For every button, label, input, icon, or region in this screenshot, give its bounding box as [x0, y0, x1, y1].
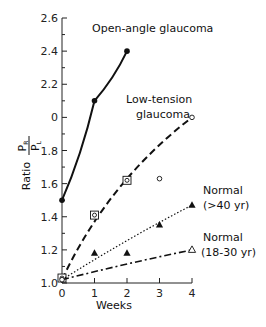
y-tick-label: 1.8 — [41, 145, 59, 158]
open-triangle-marker — [188, 246, 195, 253]
label-open-angle: Open-angle glaucoma — [92, 22, 213, 35]
label-normal-40-1: Normal — [203, 184, 243, 197]
y-axis-label-num: PR — [16, 141, 29, 152]
y-axis-label: Ratio PR PL — [16, 136, 42, 190]
filled-triangle-marker — [123, 249, 130, 256]
series-3 — [62, 205, 192, 280]
open-circle-marker — [157, 176, 162, 181]
y-tick-label: 1.6 — [41, 178, 59, 191]
y-axis-label-den: PL — [29, 140, 42, 151]
y-tick-label: 2.6 — [41, 12, 59, 25]
filled-circle-marker — [92, 98, 98, 104]
y-tick-label: 0 — [51, 111, 58, 124]
filled-triangle-marker — [91, 249, 98, 256]
y-tick-label: 1.2 — [41, 244, 59, 257]
x-tick-label: 3 — [156, 287, 163, 300]
y-tick-label: 2.2 — [41, 78, 59, 91]
square-circle-marker — [123, 176, 131, 184]
filled-circle-marker — [124, 48, 130, 54]
filled-triangle-marker — [188, 201, 195, 208]
chart: 1.01.21.41.61.802.22.42.601234 Open-angl… — [0, 0, 266, 327]
y-tick-label: 1.4 — [41, 211, 59, 224]
x-axis-label: Weeks — [96, 299, 132, 312]
plot-area — [58, 48, 196, 282]
filled-circle-marker — [59, 197, 65, 203]
square-circle-marker — [91, 211, 99, 219]
label-low-tension-1: Low-tension — [126, 93, 192, 106]
label-normal-40-2: (>40 yr) — [203, 199, 249, 212]
label-normal-18-1: Normal — [203, 231, 243, 244]
x-tick-label: 0 — [59, 287, 66, 300]
label-low-tension-2: glaucoma — [136, 108, 190, 121]
y-tick-label: 1.0 — [41, 277, 59, 290]
series-1 — [62, 51, 127, 200]
open-circle-marker — [190, 115, 195, 120]
y-tick-label: 2.4 — [41, 45, 59, 58]
x-tick-label: 4 — [189, 287, 196, 300]
label-normal-18-2: (18-30 yr) — [201, 246, 256, 259]
y-axis-label-prefix: Ratio — [20, 162, 33, 191]
axes: 1.01.21.41.61.802.22.42.601234 — [41, 12, 196, 300]
open-circle-marker — [60, 277, 65, 282]
